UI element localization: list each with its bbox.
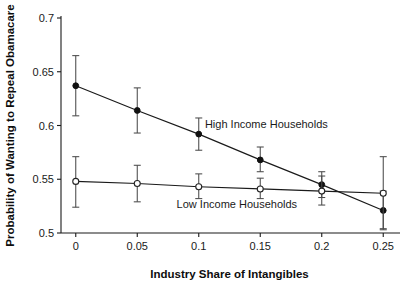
x-axis-ticks: 00.050.10.150.20.25 (73, 233, 394, 252)
y-tick-label: 0.7 (39, 12, 54, 24)
data-point-marker (134, 108, 140, 114)
x-tick-label: 0.1 (191, 240, 206, 252)
x-tick-label: 0.05 (127, 240, 148, 252)
x-tick-label: 0.2 (314, 240, 329, 252)
y-tick-label: 0.55 (33, 173, 54, 185)
data-point-marker (73, 178, 79, 184)
data-point-marker (196, 184, 202, 190)
series-label-high-income: High Income Households (205, 118, 328, 130)
data-point-marker (73, 83, 79, 89)
x-tick-label: 0 (73, 240, 79, 252)
y-axis-title: Probability of Wanting to Repeal Obamaca… (4, 4, 16, 246)
chart-figure: 0.50.550.60.650.7 00.050.10.150.20.25 Hi… (0, 0, 413, 292)
x-axis-group: 00.050.10.150.20.25 (61, 233, 400, 252)
y-axis-group: 0.50.550.60.650.7 (33, 12, 61, 239)
data-point-marker (257, 186, 263, 192)
series-trend-line (76, 181, 383, 193)
y-axis-ticks: 0.50.550.60.650.7 (33, 12, 61, 239)
data-point-marker (257, 157, 263, 163)
data-point-marker (196, 131, 202, 137)
series-label-low-income: Low Income Households (177, 198, 298, 210)
x-axis-title: Industry Share of Intangibles (150, 268, 308, 280)
data-point-marker (134, 181, 140, 187)
x-tick-label: 0.15 (250, 240, 271, 252)
data-point-marker (319, 188, 325, 194)
y-tick-label: 0.65 (33, 66, 54, 78)
y-tick-label: 0.6 (39, 120, 54, 132)
series-low-income (72, 157, 386, 230)
x-tick-label: 0.25 (373, 240, 394, 252)
y-tick-label: 0.5 (39, 227, 54, 239)
chart-canvas: 0.50.550.60.650.7 00.050.10.150.20.25 Hi… (0, 0, 413, 292)
data-point-marker (380, 190, 386, 196)
